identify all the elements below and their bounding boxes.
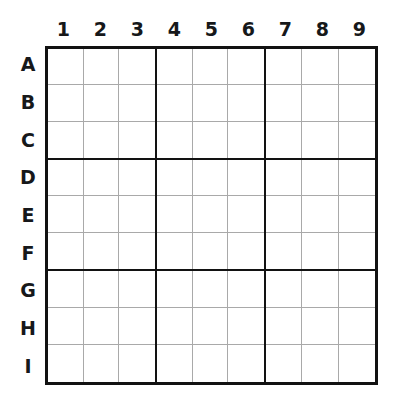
sudoku-cell-B8[interactable] — [302, 85, 338, 121]
sudoku-box-r3c3 — [266, 271, 375, 382]
sudoku-cell-B4[interactable] — [157, 85, 193, 121]
sudoku-cell-H9[interactable] — [339, 308, 375, 345]
sudoku-cell-A2[interactable] — [84, 49, 120, 85]
sudoku-cell-E9[interactable] — [339, 196, 375, 232]
sudoku-cell-D1[interactable] — [48, 160, 84, 196]
sudoku-cell-I7[interactable] — [266, 345, 302, 382]
sudoku-cell-F6[interactable] — [228, 233, 264, 269]
sudoku-cell-G3[interactable] — [119, 271, 155, 308]
sudoku-cell-F5[interactable] — [193, 233, 229, 269]
sudoku-cell-A1[interactable] — [48, 49, 84, 85]
sudoku-cell-F1[interactable] — [48, 233, 84, 269]
sudoku-cell-H5[interactable] — [193, 308, 229, 345]
sudoku-cell-D8[interactable] — [302, 160, 338, 196]
sudoku-cell-A4[interactable] — [157, 49, 193, 85]
sudoku-cell-F8[interactable] — [302, 233, 338, 269]
sudoku-cell-C1[interactable] — [48, 122, 84, 158]
sudoku-cell-I6[interactable] — [228, 345, 264, 382]
sudoku-cell-F9[interactable] — [339, 233, 375, 269]
sudoku-cell-C8[interactable] — [302, 122, 338, 158]
sudoku-cell-F4[interactable] — [157, 233, 193, 269]
sudoku-cell-B9[interactable] — [339, 85, 375, 121]
column-header-8: 8 — [304, 14, 341, 44]
sudoku-cell-F7[interactable] — [266, 233, 302, 269]
sudoku-cell-E2[interactable] — [84, 196, 120, 232]
sudoku-box-r1c2 — [157, 49, 266, 160]
sudoku-cell-C2[interactable] — [84, 122, 120, 158]
sudoku-cell-C7[interactable] — [266, 122, 302, 158]
sudoku-cell-C5[interactable] — [193, 122, 229, 158]
column-header-9: 9 — [341, 14, 378, 44]
sudoku-cell-G4[interactable] — [157, 271, 193, 308]
sudoku-puzzle: 1 2 3 4 5 6 7 8 9 A B C D E F G H I — [0, 0, 395, 408]
sudoku-cell-A5[interactable] — [193, 49, 229, 85]
sudoku-cell-H1[interactable] — [48, 308, 84, 345]
sudoku-cell-C6[interactable] — [228, 122, 264, 158]
sudoku-cell-B3[interactable] — [119, 85, 155, 121]
sudoku-box-r2c3 — [266, 160, 375, 271]
sudoku-cell-E6[interactable] — [228, 196, 264, 232]
sudoku-cell-E3[interactable] — [119, 196, 155, 232]
sudoku-cell-C9[interactable] — [339, 122, 375, 158]
sudoku-cell-B5[interactable] — [193, 85, 229, 121]
sudoku-cell-D5[interactable] — [193, 160, 229, 196]
sudoku-cell-F2[interactable] — [84, 233, 120, 269]
sudoku-cell-B1[interactable] — [48, 85, 84, 121]
sudoku-cell-E1[interactable] — [48, 196, 84, 232]
sudoku-cell-H7[interactable] — [266, 308, 302, 345]
sudoku-cell-C3[interactable] — [119, 122, 155, 158]
sudoku-cell-G9[interactable] — [339, 271, 375, 308]
sudoku-cell-G5[interactable] — [193, 271, 229, 308]
sudoku-cell-G6[interactable] — [228, 271, 264, 308]
column-header-row: 1 2 3 4 5 6 7 8 9 — [45, 14, 378, 44]
row-header-column: A B C D E F G H I — [14, 46, 42, 385]
sudoku-cell-D9[interactable] — [339, 160, 375, 196]
sudoku-cell-D7[interactable] — [266, 160, 302, 196]
sudoku-cell-I1[interactable] — [48, 345, 84, 382]
sudoku-cell-I4[interactable] — [157, 345, 193, 382]
sudoku-cell-F3[interactable] — [119, 233, 155, 269]
sudoku-cell-I8[interactable] — [302, 345, 338, 382]
sudoku-cell-G1[interactable] — [48, 271, 84, 308]
sudoku-box-r1c3 — [266, 49, 375, 160]
sudoku-cell-I5[interactable] — [193, 345, 229, 382]
column-header-3: 3 — [119, 14, 156, 44]
sudoku-cell-H8[interactable] — [302, 308, 338, 345]
row-header-b: B — [14, 84, 42, 122]
sudoku-cell-H3[interactable] — [119, 308, 155, 345]
sudoku-cell-D3[interactable] — [119, 160, 155, 196]
sudoku-cell-A7[interactable] — [266, 49, 302, 85]
sudoku-cell-E8[interactable] — [302, 196, 338, 232]
sudoku-cell-A3[interactable] — [119, 49, 155, 85]
sudoku-cell-H2[interactable] — [84, 308, 120, 345]
sudoku-cell-H4[interactable] — [157, 308, 193, 345]
sudoku-grid — [45, 46, 378, 385]
sudoku-cell-I3[interactable] — [119, 345, 155, 382]
sudoku-cell-I2[interactable] — [84, 345, 120, 382]
column-header-6: 6 — [230, 14, 267, 44]
sudoku-cell-C4[interactable] — [157, 122, 193, 158]
sudoku-cell-A8[interactable] — [302, 49, 338, 85]
sudoku-cell-D2[interactable] — [84, 160, 120, 196]
sudoku-cell-G7[interactable] — [266, 271, 302, 308]
row-header-a: A — [14, 46, 42, 84]
sudoku-box-r3c2 — [157, 271, 266, 382]
sudoku-cell-G2[interactable] — [84, 271, 120, 308]
sudoku-cell-G8[interactable] — [302, 271, 338, 308]
sudoku-cell-E4[interactable] — [157, 196, 193, 232]
row-header-g: G — [14, 272, 42, 310]
column-header-2: 2 — [82, 14, 119, 44]
sudoku-cell-B6[interactable] — [228, 85, 264, 121]
sudoku-cell-H6[interactable] — [228, 308, 264, 345]
sudoku-cell-A9[interactable] — [339, 49, 375, 85]
sudoku-box-r2c1 — [48, 160, 157, 271]
sudoku-cell-D6[interactable] — [228, 160, 264, 196]
sudoku-cell-B2[interactable] — [84, 85, 120, 121]
sudoku-cell-I9[interactable] — [339, 345, 375, 382]
sudoku-cell-B7[interactable] — [266, 85, 302, 121]
sudoku-cell-A6[interactable] — [228, 49, 264, 85]
row-header-f: F — [14, 234, 42, 272]
sudoku-cell-E7[interactable] — [266, 196, 302, 232]
sudoku-cell-D4[interactable] — [157, 160, 193, 196]
sudoku-cell-E5[interactable] — [193, 196, 229, 232]
